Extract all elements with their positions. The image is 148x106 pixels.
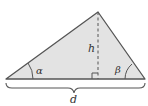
base-brace: [6, 83, 145, 93]
label-beta: β: [114, 64, 121, 75]
label-alpha: α: [36, 65, 43, 76]
triangle: [6, 12, 145, 79]
label-h: h: [88, 42, 95, 55]
label-d: d: [70, 93, 77, 106]
triangle-diagram: α β h d: [0, 0, 148, 106]
